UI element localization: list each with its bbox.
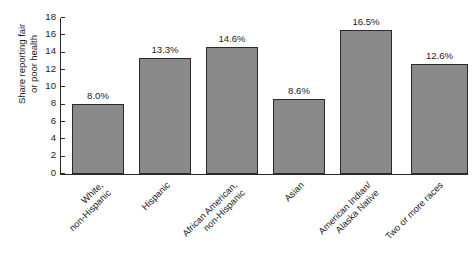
- y-tick-label: 4: [51, 132, 56, 144]
- x-category-line-1: Hispanic: [140, 180, 173, 213]
- y-tick-label: 8: [51, 97, 56, 109]
- y-axis-title-line-2: or poor health: [28, 35, 40, 93]
- bar-value-label: 12.6%: [426, 50, 453, 62]
- x-category-line-1: Asian: [283, 180, 308, 205]
- y-tick-label: 18: [45, 11, 56, 23]
- y-tick-label: 0: [51, 167, 56, 179]
- y-axis-line: [60, 18, 61, 175]
- y-tick-18: 18: [60, 17, 65, 18]
- y-tick-mark: [61, 173, 65, 174]
- bar-value-label: 8.0%: [87, 90, 109, 102]
- y-tick-mark: [61, 121, 65, 122]
- y-tick-0: 0: [60, 173, 65, 174]
- plot-area: 0 2 4 6 8 10 12 14: [60, 18, 468, 175]
- y-tick-mark: [61, 69, 65, 70]
- y-tick-4: 4: [60, 138, 65, 139]
- y-axis-title-line-1: Share reporting fair: [16, 24, 28, 104]
- bar-value-label: 16.5%: [352, 16, 379, 28]
- y-tick-label: 16: [45, 28, 56, 40]
- y-tick-10: 10: [60, 86, 65, 87]
- y-tick-6: 6: [60, 121, 65, 122]
- y-tick-14: 14: [60, 52, 65, 53]
- y-tick-label: 12: [45, 63, 56, 75]
- bar-chart: Share reporting fair or poor health 0 2 …: [0, 0, 476, 269]
- y-tick-16: 16: [60, 34, 65, 35]
- y-tick-label: 2: [51, 149, 56, 161]
- bar-asian[interactable]: 8.6%: [273, 99, 325, 174]
- bar-hispanic[interactable]: 13.3%: [139, 58, 191, 174]
- bar-value-label: 14.6%: [218, 33, 245, 45]
- y-axis-title: Share reporting fair or poor health: [11, 0, 45, 139]
- y-tick-mark: [61, 104, 65, 105]
- bar-value-label: 13.3%: [151, 44, 178, 56]
- bar-value-label: 8.6%: [288, 85, 310, 97]
- y-tick-label: 10: [45, 80, 56, 92]
- x-axis-line: [60, 174, 468, 175]
- y-tick-12: 12: [60, 69, 65, 70]
- y-tick-mark: [61, 34, 65, 35]
- y-tick-2: 2: [60, 156, 65, 157]
- y-tick-mark: [61, 138, 65, 139]
- bar-white-non-hispanic[interactable]: 8.0%: [72, 104, 124, 174]
- bar-two-or-more-races[interactable]: 12.6%: [411, 64, 468, 174]
- y-tick-mark: [61, 156, 65, 157]
- y-tick-mark: [61, 86, 65, 87]
- bar-african-american-non-hispanic[interactable]: 14.6%: [206, 47, 258, 174]
- y-tick-mark: [61, 52, 65, 53]
- y-tick-8: 8: [60, 104, 65, 105]
- bar-american-indian-alaska-native[interactable]: 16.5%: [340, 30, 392, 174]
- y-tick-label: 14: [45, 45, 56, 57]
- x-category-line-1: Two or more races: [384, 180, 447, 243]
- y-tick-mark: [61, 17, 65, 18]
- y-tick-label: 6: [51, 115, 56, 127]
